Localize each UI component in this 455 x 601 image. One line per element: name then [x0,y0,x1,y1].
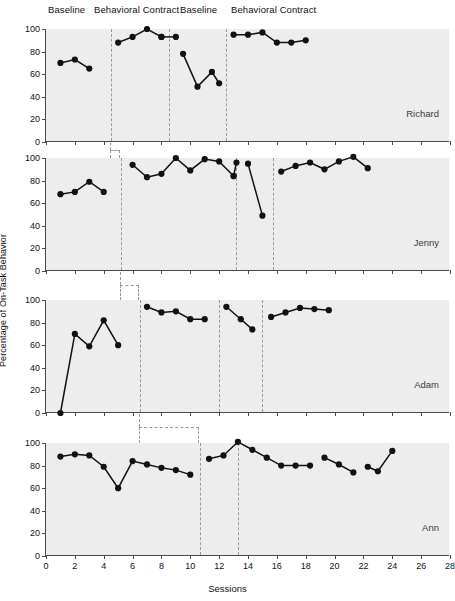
data-point [86,179,92,185]
data-point [101,464,107,470]
x-tick-label: 10 [185,561,195,571]
data-point [86,343,92,349]
series-line [368,451,393,471]
data-point [158,34,164,40]
data-point [72,331,78,337]
series-line [118,29,161,43]
data-point [259,213,265,219]
data-series-ann [46,443,450,556]
y-tick-label: 0 [35,137,40,147]
data-point [115,485,121,491]
data-point [86,452,92,458]
y-axis-title: Percentage of On-Task Behavior [0,0,12,601]
data-point [311,306,317,312]
phase-header-contract-2: Behavioral Contract [231,4,316,15]
series-line [60,320,118,413]
data-point [293,463,299,469]
y-tick-label: 80 [30,47,40,57]
data-point [268,314,274,320]
data-point [144,174,150,180]
data-point [216,80,222,86]
y-tick-label: 60 [30,69,40,79]
data-point [158,465,164,471]
x-tick [450,270,451,274]
data-point [259,29,265,35]
chart-figure: Percentage of On-Task Behavior Baseline … [0,0,455,601]
data-point [307,463,313,469]
data-point [278,168,284,174]
data-point [216,158,222,164]
series-line [60,454,190,488]
panel-label-adam: Adam [414,379,439,390]
plot-area-jenny: 020406080100Jenny [45,158,449,271]
x-tick [450,412,451,416]
data-point [173,34,179,40]
y-tick-label: 20 [30,528,40,538]
data-point [194,84,200,90]
y-tick-label: 0 [35,408,40,418]
data-point [375,468,381,474]
x-tick-label: 4 [101,561,106,571]
y-tick-label: 80 [30,176,40,186]
data-series-adam [46,300,450,413]
panel-label-ann: Ann [422,522,439,533]
panel-label-richard: Richard [406,108,439,119]
data-point [264,455,270,461]
data-point [326,307,332,313]
data-point [336,158,342,164]
y-tick-label: 40 [30,92,40,102]
data-point [129,162,135,168]
plot-area-ann: 0204060801000246810121416182022242628Ann [45,443,449,556]
data-point [72,189,78,195]
y-tick-label: 20 [30,243,40,253]
x-axis-title: Sessions [0,583,455,594]
x-tick-label: 2 [72,561,77,571]
data-point [288,39,294,45]
x-tick-label: 8 [159,561,164,571]
phase-header-contract-1: Behavioral Contract [94,4,179,15]
data-point [233,159,239,165]
data-point [245,32,251,38]
series-line [234,32,306,42]
data-point [101,189,107,195]
data-point [187,316,193,322]
x-tick-label: 18 [301,561,311,571]
data-point [365,464,371,470]
y-tick-label: 40 [30,221,40,231]
data-series-jenny [46,158,450,271]
y-tick-label: 100 [25,295,40,305]
y-tick-label: 80 [30,461,40,471]
data-point [144,304,150,310]
data-series-richard [46,29,450,142]
plot-area-adam: 020406080100Adam [45,300,449,413]
data-point [220,452,226,458]
x-tick-label: 14 [243,561,253,571]
phase-connector-bracket [120,285,139,300]
data-point [86,65,92,71]
y-tick-label: 100 [25,153,40,163]
phase-connector-stub [120,272,121,285]
x-tick-label: 22 [358,561,368,571]
data-point [350,154,356,160]
phase-connector-bracket [139,427,200,443]
y-tick-label: 60 [30,483,40,493]
data-point [389,448,395,454]
data-point [57,453,63,459]
data-point [144,26,150,32]
x-tick [450,141,451,145]
data-point [187,167,193,173]
phase-header-baseline-1: Baseline [48,4,85,15]
y-tick-label: 0 [35,266,40,276]
data-point [72,56,78,62]
x-tick-label: 0 [43,561,48,571]
data-point [202,316,208,322]
y-tick-label: 100 [25,24,40,34]
data-point [187,472,193,478]
data-point [274,39,280,45]
x-tick-label: 12 [214,561,224,571]
x-tick-label: 20 [330,561,340,571]
data-point [129,458,135,464]
data-point [249,326,255,332]
data-point [245,161,251,167]
panel-label-jenny: Jenny [414,237,439,248]
